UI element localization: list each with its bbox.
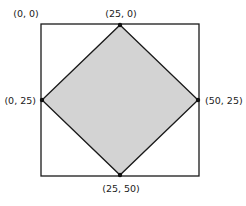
vertex-bottom — [118, 173, 122, 177]
label-left-vertex: (0, 25) — [4, 95, 36, 106]
vertex-right — [196, 98, 200, 102]
square-diamond-diagram: (0, 0) (25, 0) (0, 25) (50, 25) (25, 50) — [0, 0, 246, 206]
label-top-vertex: (25, 0) — [105, 8, 137, 19]
label-right-vertex: (50, 25) — [205, 95, 243, 106]
label-bottom-vertex: (25, 50) — [102, 183, 140, 194]
vertex-left — [40, 98, 44, 102]
vertex-top — [118, 23, 122, 27]
label-corner-top-left: (0, 0) — [13, 8, 39, 19]
